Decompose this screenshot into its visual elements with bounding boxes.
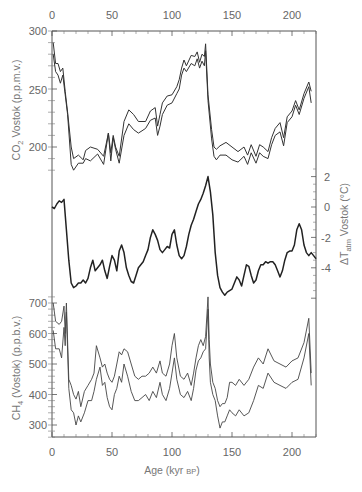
ch4-axis-title: CH4 (Vostok) (p.p.b.v.) bbox=[10, 316, 25, 420]
ch4-tick-600: 600 bbox=[29, 328, 47, 340]
top-x-tick-0: 0 bbox=[49, 9, 55, 21]
co2-tick-250: 250 bbox=[29, 84, 47, 96]
temp-tick-labels: 2 0 -2 -4 bbox=[321, 171, 331, 274]
bottom-x-tick-200: 200 bbox=[283, 446, 301, 458]
temp-tick-neg4: -4 bbox=[321, 262, 331, 274]
top-x-tick-100: 100 bbox=[163, 9, 181, 21]
co2-tick-labels: 300 250 200 bbox=[29, 25, 47, 153]
co2-series-lower bbox=[53, 51, 311, 171]
temperature-series bbox=[52, 177, 316, 296]
ch4-tick-300: 300 bbox=[29, 419, 47, 431]
temp-tick-0: 0 bbox=[324, 201, 330, 213]
temp-tick-neg2: -2 bbox=[321, 232, 331, 244]
vostok-ice-core-chart: 0 50 100 150 200 0 50 100 150 200 Age (k… bbox=[0, 0, 362, 492]
ch4-tick-500: 500 bbox=[29, 358, 47, 370]
temp-tick-2: 2 bbox=[324, 171, 330, 183]
bottom-x-tick-0: 0 bbox=[49, 446, 55, 458]
top-x-tick-200: 200 bbox=[283, 9, 301, 21]
co2-tick-300: 300 bbox=[29, 25, 47, 37]
axis-ticks bbox=[48, 31, 316, 437]
ch4-tick-400: 400 bbox=[29, 389, 47, 401]
ch4-tick-labels: 700 600 500 400 300 bbox=[29, 297, 47, 431]
bottom-x-tick-labels: 0 50 100 150 200 bbox=[49, 446, 301, 458]
co2-axis-title: CO2 Vostok (p.p.m.v.) bbox=[10, 60, 25, 161]
x-axis-title: Age (kyr BP) bbox=[144, 464, 200, 476]
top-x-tick-150: 150 bbox=[223, 9, 241, 21]
ch4-tick-700: 700 bbox=[29, 297, 47, 309]
ch4-series-lower bbox=[53, 309, 311, 428]
bottom-x-tick-50: 50 bbox=[106, 446, 118, 458]
top-x-tick-labels: 0 50 100 150 200 bbox=[49, 9, 301, 21]
bottom-x-tick-150: 150 bbox=[223, 446, 241, 458]
ch4-series-upper bbox=[53, 297, 311, 407]
co2-tick-200: 200 bbox=[29, 141, 47, 153]
temp-axis-title: ΔTatm Vostok (°C) bbox=[338, 183, 353, 265]
top-x-tick-50: 50 bbox=[106, 9, 118, 21]
bottom-x-tick-100: 100 bbox=[163, 446, 181, 458]
